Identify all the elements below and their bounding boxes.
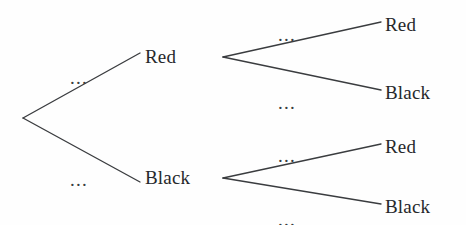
node-label-level1-red: Red bbox=[145, 47, 176, 66]
node-label-level2-red-black: Black bbox=[385, 83, 430, 102]
branch-label-root-red: ... bbox=[70, 68, 88, 87]
branch-label-root-black: ... bbox=[70, 170, 88, 189]
branch-label-red-red: ... bbox=[278, 25, 296, 44]
node-label-level1-black: Black bbox=[145, 168, 190, 187]
probability-tree-diagram: Red Black Red Black Red Black ... ... ..… bbox=[0, 0, 466, 225]
branch-black-red bbox=[223, 144, 381, 178]
branch-label-black-black: ... bbox=[278, 210, 296, 225]
branch-black-black bbox=[223, 178, 381, 204]
node-label-level2-black-red: Red bbox=[385, 137, 416, 156]
branch-label-red-black: ... bbox=[278, 93, 296, 112]
node-label-level2-black-black: Black bbox=[385, 197, 430, 216]
branch-label-black-red: ... bbox=[278, 146, 296, 165]
node-label-level2-red-red: Red bbox=[385, 15, 416, 34]
branch-red-red bbox=[223, 22, 381, 57]
branch-red-black bbox=[223, 57, 381, 90]
